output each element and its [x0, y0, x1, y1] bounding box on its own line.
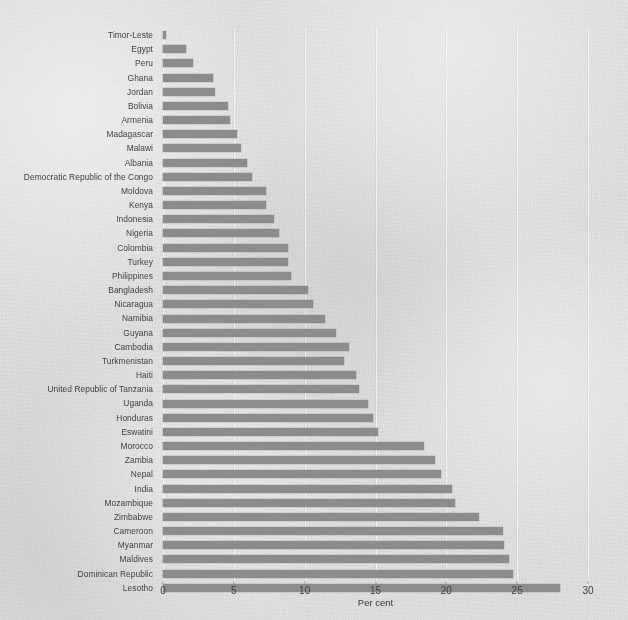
bar[interactable] — [163, 513, 479, 521]
bar[interactable] — [163, 456, 435, 464]
bar-row[interactable] — [163, 28, 588, 42]
bar[interactable] — [163, 258, 288, 266]
bar-row[interactable] — [163, 170, 588, 184]
bar[interactable] — [163, 329, 336, 337]
bar[interactable] — [163, 555, 509, 563]
category-label: Guyana — [0, 326, 158, 340]
x-tick-5: 5 — [231, 581, 237, 596]
bar[interactable] — [163, 315, 325, 323]
bar-row[interactable] — [163, 156, 588, 170]
bar-row[interactable] — [163, 467, 588, 481]
bar-row[interactable] — [163, 538, 588, 552]
bar-row[interactable] — [163, 567, 588, 581]
bar-row[interactable] — [163, 340, 588, 354]
bar-row[interactable] — [163, 524, 588, 538]
bar[interactable] — [163, 144, 241, 152]
bar[interactable] — [163, 414, 373, 422]
bar[interactable] — [163, 470, 441, 478]
category-label: Madagascar — [0, 127, 158, 141]
category-label: Nepal — [0, 467, 158, 481]
bar-row[interactable] — [163, 42, 588, 56]
bar-row[interactable] — [163, 269, 588, 283]
bar[interactable] — [163, 286, 308, 294]
gridline-30 — [588, 28, 589, 581]
bar-row[interactable] — [163, 326, 588, 340]
bar[interactable] — [163, 31, 166, 39]
bar[interactable] — [163, 130, 237, 138]
bar[interactable] — [163, 385, 359, 393]
bar[interactable] — [163, 442, 424, 450]
bar[interactable] — [163, 357, 344, 365]
bar[interactable] — [163, 272, 291, 280]
bar-row[interactable] — [163, 552, 588, 566]
bar-row[interactable] — [163, 496, 588, 510]
bar-row[interactable] — [163, 226, 588, 240]
bar[interactable] — [163, 343, 349, 351]
bar[interactable] — [163, 527, 503, 535]
bar[interactable] — [163, 499, 455, 507]
bar[interactable] — [163, 187, 266, 195]
category-label: Namibia — [0, 311, 158, 325]
bar[interactable] — [163, 541, 504, 549]
bar[interactable] — [163, 400, 368, 408]
tick-mark-icon — [517, 581, 518, 584]
bar-row[interactable] — [163, 283, 588, 297]
bar[interactable] — [163, 116, 230, 124]
x-tick-0: 0 — [160, 581, 166, 596]
bar[interactable] — [163, 88, 215, 96]
bar-row[interactable] — [163, 127, 588, 141]
bar[interactable] — [163, 159, 247, 167]
bar[interactable] — [163, 428, 378, 436]
category-label: Philippines — [0, 269, 158, 283]
bar-row[interactable] — [163, 198, 588, 212]
category-label: Albania — [0, 156, 158, 170]
bar-row[interactable] — [163, 71, 588, 85]
bar-row[interactable] — [163, 368, 588, 382]
bar[interactable] — [163, 485, 452, 493]
bar-row[interactable] — [163, 382, 588, 396]
bar-row[interactable] — [163, 255, 588, 269]
bar[interactable] — [163, 229, 279, 237]
bar[interactable] — [163, 45, 186, 53]
bar-row[interactable] — [163, 510, 588, 524]
bar-row[interactable] — [163, 56, 588, 70]
bar-row[interactable] — [163, 482, 588, 496]
bar[interactable] — [163, 570, 513, 578]
category-axis-labels: Timor-LesteEgyptPeruGhanaJordanBoliviaAr… — [0, 28, 158, 581]
bar[interactable] — [163, 201, 266, 209]
bar[interactable] — [163, 300, 313, 308]
bar-row[interactable] — [163, 439, 588, 453]
x-tick-label: 20 — [441, 585, 452, 596]
x-axis-title: Per cent — [163, 597, 588, 608]
bar-row[interactable] — [163, 184, 588, 198]
category-label: Armenia — [0, 113, 158, 127]
bar[interactable] — [163, 173, 252, 181]
category-label: Egypt — [0, 42, 158, 56]
bar[interactable] — [163, 102, 228, 110]
bar[interactable] — [163, 59, 193, 67]
x-tick-label: 10 — [299, 585, 310, 596]
category-label: United Republic of Tanzania — [0, 382, 158, 396]
bar-row[interactable] — [163, 241, 588, 255]
bar-row[interactable] — [163, 113, 588, 127]
bar[interactable] — [163, 371, 356, 379]
bar-row[interactable] — [163, 411, 588, 425]
bar-rows — [163, 28, 588, 581]
bar-row[interactable] — [163, 425, 588, 439]
category-label: India — [0, 482, 158, 496]
bar[interactable] — [163, 215, 274, 223]
bar-row[interactable] — [163, 141, 588, 155]
bar-row[interactable] — [163, 297, 588, 311]
category-label: Maldives — [0, 552, 158, 566]
bar-row[interactable] — [163, 85, 588, 99]
bar-row[interactable] — [163, 396, 588, 410]
bar-row[interactable] — [163, 354, 588, 368]
bar-row[interactable] — [163, 311, 588, 325]
bar-row[interactable] — [163, 212, 588, 226]
bar-row[interactable] — [163, 453, 588, 467]
bar-chart: Timor-LesteEgyptPeruGhanaJordanBoliviaAr… — [0, 0, 628, 620]
bar-row[interactable] — [163, 99, 588, 113]
bar[interactable] — [163, 244, 288, 252]
x-tick-label: 15 — [370, 585, 381, 596]
bar[interactable] — [163, 74, 213, 82]
